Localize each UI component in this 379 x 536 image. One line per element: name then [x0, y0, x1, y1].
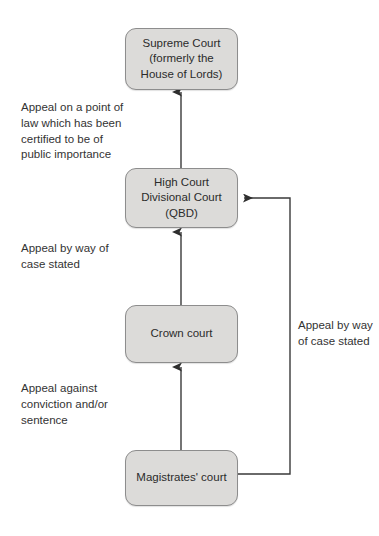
annotation-appeal-point-of-law: Appeal on a point of law which has been …	[21, 100, 133, 163]
node-supreme-court[interactable]: Supreme Court (formerly the House of Lor…	[125, 28, 238, 90]
connector-mags-to-highcourt	[238, 198, 290, 474]
node-magistrates-court-label: Magistrates' court	[130, 470, 232, 486]
node-magistrates-court[interactable]: Magistrates' court	[125, 450, 238, 506]
annotation-appeal-case-stated-right: Appeal by way of case stated	[298, 318, 376, 350]
node-crown-court[interactable]: Crown court	[125, 305, 238, 363]
annotation-appeal-case-stated-left: Appeal by way of case stated	[21, 241, 133, 273]
node-high-court-divisional[interactable]: High Court Divisional Court (QBD)	[125, 168, 238, 228]
node-crown-court-label: Crown court	[145, 326, 219, 342]
court-hierarchy-diagram: Supreme Court (formerly the House of Lor…	[0, 0, 379, 536]
node-supreme-court-label: Supreme Court (formerly the House of Lor…	[135, 36, 229, 83]
annotation-appeal-against-conviction: Appeal against conviction and/or sentenc…	[21, 381, 133, 428]
node-high-court-divisional-label: High Court Divisional Court (QBD)	[135, 175, 228, 222]
